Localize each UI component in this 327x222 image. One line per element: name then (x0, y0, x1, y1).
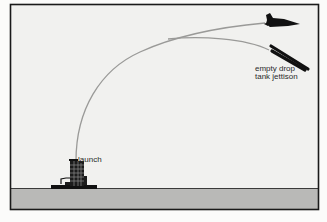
launch-trajectory-diagram: empty drop tank jettison launch (0, 0, 327, 222)
jettison-label-line2: tank jettison (255, 72, 298, 81)
sky-background (11, 5, 318, 189)
ground (11, 188, 318, 209)
launch-label: launch (78, 155, 102, 164)
